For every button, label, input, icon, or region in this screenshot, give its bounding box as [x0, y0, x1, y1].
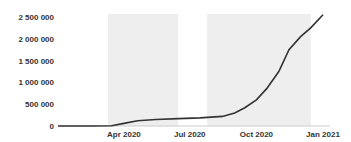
x-tick-label: Jan 2021 — [306, 130, 340, 139]
line-chart: 0500 0001 000 0001 500 0002 000 0002 500… — [0, 0, 351, 142]
shaded-period-1 — [108, 14, 178, 126]
y-tick-label: 0 — [50, 122, 55, 131]
y-axis: 0500 0001 000 0001 500 0002 000 0002 500… — [18, 13, 54, 131]
y-tick-label: 2 500 000 — [18, 13, 54, 22]
x-tick-label: Oct 2020 — [240, 130, 274, 139]
y-tick-label: 500 000 — [25, 100, 54, 109]
shaded-period-2 — [207, 14, 311, 126]
y-tick-label: 1 000 000 — [18, 78, 54, 87]
y-tick-label: 2 000 000 — [18, 35, 54, 44]
y-tick-label: 1 500 000 — [18, 57, 54, 66]
x-tick-label: Jul 2020 — [174, 130, 206, 139]
x-tick-label: Apr 2020 — [107, 130, 141, 139]
x-axis: Apr 2020Jul 2020Oct 2020Jan 2021 — [107, 130, 340, 139]
